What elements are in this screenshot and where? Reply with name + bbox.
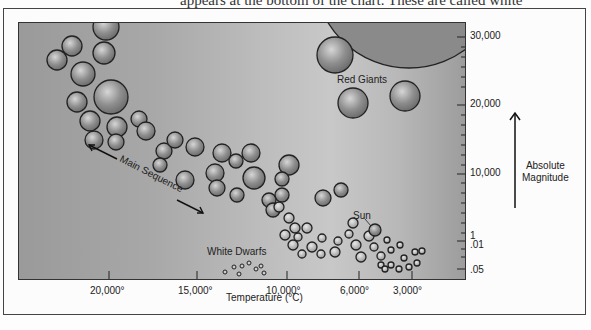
y-tick-label: .01 xyxy=(470,239,484,250)
x-axis-ticks xyxy=(109,271,412,280)
y-tick-label: 20,000 xyxy=(470,98,501,109)
y-tick-label: .05 xyxy=(470,264,484,275)
x-tick-label: 20,000° xyxy=(90,285,125,296)
label-white-dwarfs: White Dwarfs xyxy=(207,246,266,257)
y-tick-label: 30,000 xyxy=(470,30,501,41)
star-scatter: Red Giants Main Sequence Sun White Dwarf… xyxy=(19,23,466,280)
x-tick-label: 6,000° xyxy=(340,285,369,296)
label-sun: Sun xyxy=(353,210,371,221)
y-tick-label: 10,000 xyxy=(470,167,501,178)
plot-area: Red Giants Main Sequence Sun White Dwarf… xyxy=(18,22,466,280)
x-tick-label: 3,000° xyxy=(393,285,422,296)
x-axis-title: Temperature (°C) xyxy=(226,292,303,303)
label-main-sequence: Main Sequence xyxy=(118,153,185,195)
y-axis-title: Absolute Magnitude xyxy=(522,160,569,184)
label-red-giants: Red Giants xyxy=(337,74,387,85)
y-axis-ticks xyxy=(457,37,466,269)
x-tick-label: 15,000° xyxy=(178,285,213,296)
